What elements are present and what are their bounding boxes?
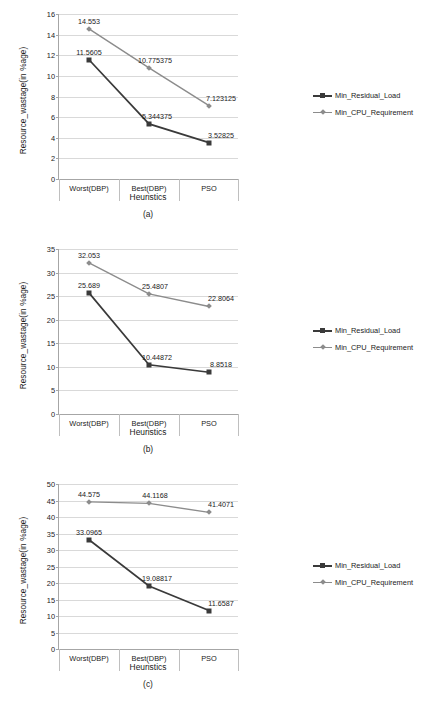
y-tick-label: 15 bbox=[47, 339, 55, 348]
y-tick-label: 30 bbox=[47, 546, 55, 555]
data-label: 11.6587 bbox=[208, 599, 233, 608]
y-tick-label: 12 bbox=[47, 51, 55, 60]
data-label: 8.8518 bbox=[210, 360, 232, 369]
data-label: 10.44872 bbox=[142, 353, 172, 362]
legend: Min_Residual_LoadMin_CPU_Requirement bbox=[313, 558, 433, 592]
figure-caption: (b) bbox=[58, 444, 238, 454]
y-tick-label: 20 bbox=[47, 579, 55, 588]
figure-b: Resource_wastage(in %age)051015202530352… bbox=[0, 235, 437, 468]
plot-area: 0510152025303525.68910.448728.851832.053… bbox=[58, 249, 238, 414]
y-axis-title: Resource_wastage(in %age) bbox=[19, 261, 28, 411]
data-point-marker bbox=[207, 370, 212, 375]
legend-item-2[interactable]: Min_CPU_Requirement bbox=[313, 105, 433, 119]
legend-square-marker-icon bbox=[313, 326, 332, 335]
data-point-marker bbox=[207, 140, 212, 145]
data-label: 32.053 bbox=[78, 251, 100, 260]
data-point-marker bbox=[147, 121, 152, 126]
y-tick-label: 45 bbox=[47, 496, 55, 505]
y-tick-label: 5 bbox=[51, 386, 55, 395]
y-tick-label: 15 bbox=[47, 595, 55, 604]
legend-label: Min_Residual_Load bbox=[335, 326, 400, 335]
y-tick-label: 30 bbox=[47, 268, 55, 277]
y-tick-label: 0 bbox=[51, 410, 55, 419]
series-line-1 bbox=[89, 60, 209, 143]
legend: Min_Residual_LoadMin_CPU_Requirement bbox=[313, 88, 433, 122]
y-tick-label: 16 bbox=[47, 10, 55, 19]
figure-page: Resource_wastage(in %age)024681012141611… bbox=[0, 0, 437, 701]
y-tick-label: 10 bbox=[47, 362, 55, 371]
figure-caption: (a) bbox=[58, 209, 238, 219]
figure-caption: (c) bbox=[58, 679, 238, 689]
data-label: 25.689 bbox=[78, 281, 100, 290]
series-lines bbox=[59, 249, 239, 414]
data-label: 41.4071 bbox=[208, 500, 234, 509]
plot-area: 024681012141611.56055.3443753.5282514.55… bbox=[58, 14, 238, 179]
y-axis-title: Resource_wastage(in %age) bbox=[19, 496, 28, 646]
y-tick-label: 10 bbox=[47, 612, 55, 621]
legend-square-marker-icon bbox=[313, 561, 332, 570]
data-label: 5.344375 bbox=[142, 112, 172, 121]
legend-label: Min_CPU_Requirement bbox=[335, 343, 413, 352]
y-tick-label: 14 bbox=[47, 30, 55, 39]
y-tick-label: 4 bbox=[51, 133, 55, 142]
data-label: 44.1168 bbox=[142, 491, 167, 500]
legend-item-1[interactable]: Min_Residual_Load bbox=[313, 88, 433, 102]
figure-c: Resource_wastage(in %age)051015202530354… bbox=[0, 470, 437, 701]
y-tick-label: 6 bbox=[51, 113, 55, 122]
data-point-marker bbox=[147, 584, 152, 589]
y-tick-label: 35 bbox=[47, 245, 55, 254]
y-tick-label: 8 bbox=[51, 92, 55, 101]
data-point-marker bbox=[147, 362, 152, 367]
y-tick-label: 25 bbox=[47, 292, 55, 301]
data-label: 44.575 bbox=[78, 490, 100, 499]
data-label: 11.5605 bbox=[76, 48, 101, 57]
data-point-marker bbox=[87, 290, 92, 295]
y-tick-label: 5 bbox=[51, 628, 55, 637]
legend-label: Min_Residual_Load bbox=[335, 561, 400, 570]
data-point-marker bbox=[87, 57, 92, 62]
plot-area: 0510152025303540455033.096519.0881711.65… bbox=[58, 484, 238, 649]
legend-label: Min_CPU_Requirement bbox=[335, 108, 413, 117]
data-label: 25.4807 bbox=[142, 282, 168, 291]
legend-item-2[interactable]: Min_CPU_Requirement bbox=[313, 340, 433, 354]
data-label: 33.0965 bbox=[76, 528, 102, 537]
x-axis-title: Heuristics bbox=[58, 427, 238, 437]
x-axis-title: Heuristics bbox=[58, 192, 238, 202]
y-tick-label: 2 bbox=[51, 154, 55, 163]
x-axis-title: Heuristics bbox=[58, 662, 238, 672]
y-tick-label: 0 bbox=[51, 645, 55, 654]
data-label: 22.8064 bbox=[208, 294, 234, 303]
legend-diamond-marker-icon bbox=[313, 343, 332, 352]
legend-item-1[interactable]: Min_Residual_Load bbox=[313, 323, 433, 337]
y-tick-label: 20 bbox=[47, 315, 55, 324]
y-tick-label: 25 bbox=[47, 562, 55, 571]
legend-diamond-marker-icon bbox=[313, 108, 332, 117]
y-tick-label: 10 bbox=[47, 71, 55, 80]
y-axis-title: Resource_wastage(in %age) bbox=[19, 26, 28, 176]
y-tick-label: 40 bbox=[47, 513, 55, 522]
legend-diamond-marker-icon bbox=[313, 578, 332, 587]
legend-label: Min_Residual_Load bbox=[335, 91, 400, 100]
y-tick-label: 35 bbox=[47, 529, 55, 538]
legend-square-marker-icon bbox=[313, 91, 332, 100]
legend-item-2[interactable]: Min_CPU_Requirement bbox=[313, 575, 433, 589]
figure-a: Resource_wastage(in %age)024681012141611… bbox=[0, 0, 437, 233]
data-label: 7.123125 bbox=[206, 94, 236, 103]
data-label: 19.08817 bbox=[142, 574, 172, 583]
data-point-marker bbox=[87, 537, 92, 542]
data-label: 14.553 bbox=[78, 17, 100, 26]
data-label: 3.52825 bbox=[208, 131, 234, 140]
legend-item-1[interactable]: Min_Residual_Load bbox=[313, 558, 433, 572]
legend: Min_Residual_LoadMin_CPU_Requirement bbox=[313, 323, 433, 357]
y-tick-label: 50 bbox=[47, 480, 55, 489]
data-point-marker bbox=[207, 608, 212, 613]
y-tick-label: 0 bbox=[51, 175, 55, 184]
data-label: 10.775375 bbox=[138, 56, 172, 65]
legend-label: Min_CPU_Requirement bbox=[335, 578, 413, 587]
